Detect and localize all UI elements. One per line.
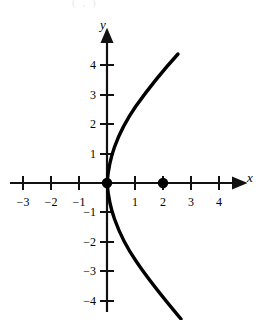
x-tick-label-neg2: −2 <box>45 196 58 208</box>
y-tick-label-neg1: −1 <box>70 206 96 218</box>
y-tick-label-3: 3 <box>78 89 96 101</box>
parabola-upper-branch <box>107 54 178 183</box>
y-axis-label: y <box>100 18 106 31</box>
parabola-lower-branch <box>107 183 181 319</box>
x-axis-label: x <box>247 171 253 184</box>
y-tick-label-4: 4 <box>78 59 96 71</box>
y-tick-label-1: 1 <box>78 148 96 160</box>
x-tick-label-2: 2 <box>160 196 166 208</box>
coordinate-plane-svg <box>0 0 266 320</box>
focus-point-marker <box>158 178 168 188</box>
x-tick-label-4: 4 <box>216 196 222 208</box>
vertex-point-marker <box>102 178 112 188</box>
x-tick-label-1: 1 <box>132 196 138 208</box>
y-tick-label-neg3: −3 <box>70 265 96 277</box>
x-tick-label-3: 3 <box>188 196 194 208</box>
parabola-graph-figure: ( , ) <box>0 0 266 320</box>
x-tick-label-neg3: −3 <box>17 196 30 208</box>
y-tick-label-neg4: −4 <box>70 295 96 307</box>
y-tick-label-2: 2 <box>78 118 96 130</box>
y-tick-label-neg2: −2 <box>70 236 96 248</box>
